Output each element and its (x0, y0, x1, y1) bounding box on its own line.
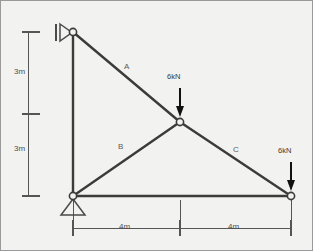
node-center (176, 118, 183, 125)
horizontal-dimension-group (73, 200, 291, 236)
dimension-label-vertical-bottom: 3m (14, 144, 25, 153)
dimension-label-horizontal-right: 4m (228, 222, 239, 231)
member-b (73, 122, 180, 196)
member-a (73, 32, 180, 122)
truss-members (73, 32, 291, 196)
truss-diagram-canvas (0, 0, 313, 251)
node-top-pin (69, 28, 76, 35)
node-right (287, 192, 294, 199)
load-label-center: 6kN (167, 72, 180, 81)
dimension-label-vertical-top: 3m (14, 67, 25, 76)
member-label-a: A (124, 62, 129, 71)
load-arrow-center-head (176, 106, 184, 117)
member-label-b: B (118, 142, 123, 151)
member-c (180, 122, 291, 196)
load-arrow-center (176, 88, 184, 117)
figure-border (1, 1, 313, 251)
dimension-label-horizontal-left: 4m (119, 222, 130, 231)
load-arrow-right-head (287, 180, 295, 191)
truss-diagram-figure: 3m 3m 4m 4m A B C 6kN 6kN (0, 0, 313, 251)
node-bottom-pin (69, 192, 76, 199)
load-arrow-right (287, 162, 295, 191)
member-label-c: C (233, 145, 239, 154)
vertical-dimension-group (22, 32, 40, 196)
load-label-right: 6kN (278, 146, 291, 155)
